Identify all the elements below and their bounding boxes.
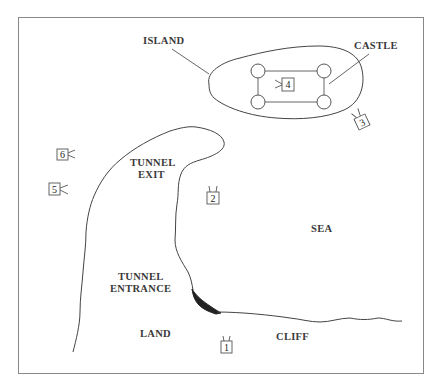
island-leader-line [172, 49, 209, 74]
castle-tower-ne [317, 64, 331, 78]
label-tunnel-exit-2: EXIT [138, 169, 165, 180]
marker-4-label: 4 [286, 79, 291, 90]
marker-2[interactable]: 2 [207, 186, 219, 204]
marker-3[interactable]: 3 [351, 107, 370, 130]
label-tunnel-exit-1: TUNNEL [130, 157, 176, 168]
cliff-coastline [217, 312, 402, 322]
label-castle: CASTLE [354, 40, 398, 51]
label-land: LAND [140, 328, 171, 339]
label-tunnel-entrance-1: TUNNEL [118, 271, 164, 282]
marker-6[interactable]: 6 [57, 149, 75, 160]
marker-5[interactable]: 5 [49, 183, 68, 195]
marker-1-label: 1 [224, 342, 229, 353]
castle-tower-se [317, 95, 331, 109]
label-island: ISLAND [143, 35, 185, 46]
label-cliff: CLIFF [276, 331, 309, 342]
marker-1[interactable]: 1 [221, 336, 232, 353]
castle-tower-nw [251, 64, 265, 78]
castle-tower-sw [251, 95, 265, 109]
marker-4[interactable]: 4 [275, 78, 294, 91]
label-sea: SEA [311, 223, 332, 234]
label-tunnel-entrance-2: ENTRANCE [110, 283, 171, 294]
marker-2-label: 2 [211, 193, 216, 204]
map-diagram: ISLAND CASTLE TUNNEL EXIT TUNNEL ENTRANC… [0, 0, 439, 387]
marker-6-label: 6 [60, 149, 65, 160]
tunnel-mark [192, 289, 221, 314]
marker-5-label: 5 [52, 184, 57, 195]
